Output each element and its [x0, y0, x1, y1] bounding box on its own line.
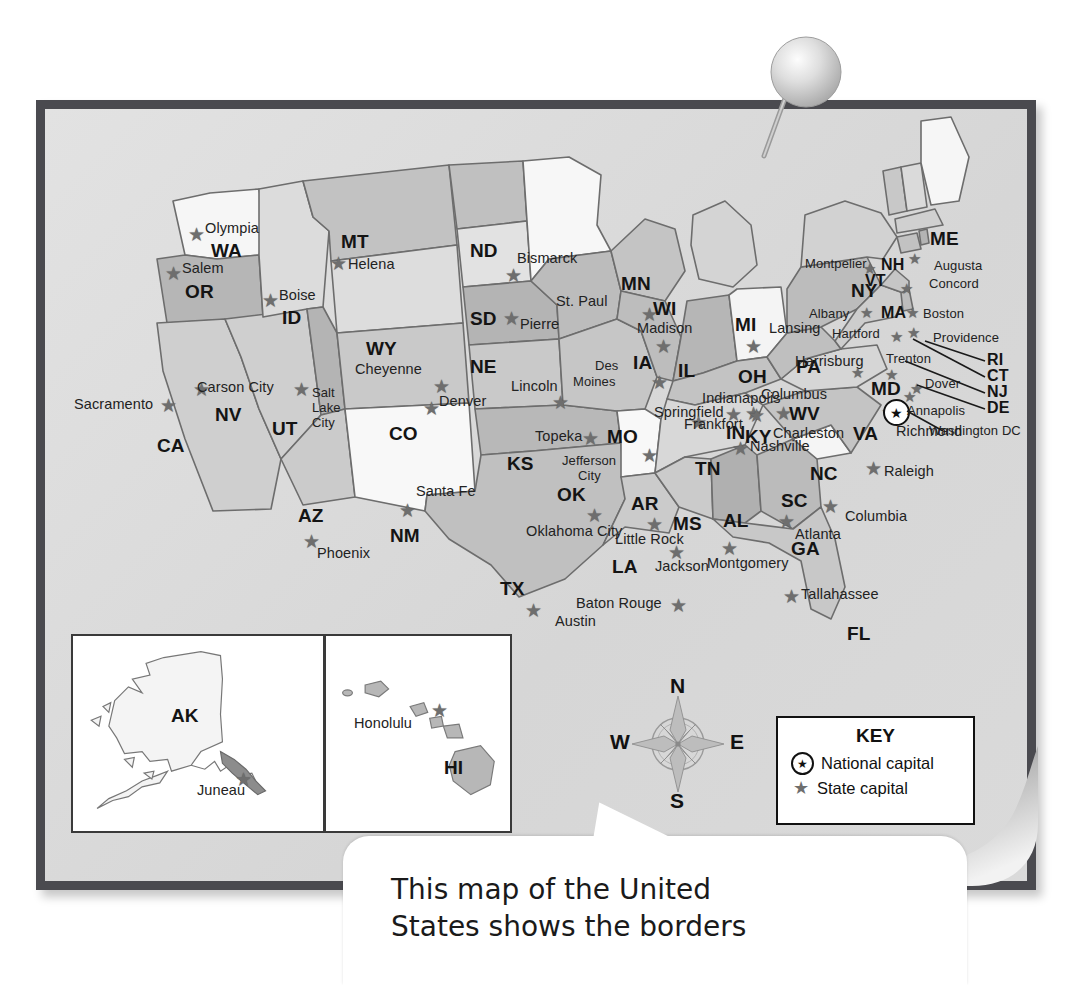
- state-capital-star-icon: ★: [655, 337, 672, 356]
- city-label-lansing: Lansing: [769, 321, 821, 336]
- city-label-salem: Salem: [182, 261, 224, 276]
- state-capital-star-icon: ★: [582, 429, 599, 448]
- city-label-jefferson: Jefferson: [562, 454, 616, 467]
- state-capital-star-icon: ★: [783, 587, 800, 606]
- state-abbr-mi: MI: [735, 315, 756, 334]
- city-label-charleston: Charleston: [773, 426, 844, 441]
- state-abbr-ky: KY: [745, 427, 772, 446]
- state-abbr-wv: WV: [789, 404, 820, 423]
- state-capital-star-icon: ★: [399, 501, 416, 520]
- city-label-montpelier: Montpelier: [805, 257, 867, 270]
- state-abbr-me: ME: [930, 229, 959, 248]
- state-abbr-mn: MN: [621, 274, 651, 293]
- state-capital-star-icon: ★: [851, 365, 864, 380]
- city-label-juneau: Juneau: [197, 783, 245, 798]
- state-abbr-tn: TN: [695, 459, 721, 478]
- city-label-concord: Concord: [929, 277, 979, 290]
- city-label-moines: Moines: [573, 375, 616, 388]
- city-label-columbia: Columbia: [845, 509, 907, 524]
- state-capital-star-icon: ★: [160, 396, 177, 415]
- state-abbr-al: AL: [723, 511, 749, 530]
- city-label-pierre: Pierre: [520, 317, 559, 332]
- state-capital-star-icon: ★: [670, 596, 687, 615]
- state-abbr-il: IL: [678, 361, 695, 380]
- state-capital-star-icon: ★: [910, 381, 923, 396]
- state-abbr-mt: MT: [341, 232, 369, 251]
- hawaii-outline: [326, 636, 506, 827]
- state-abbr-nc: NC: [810, 464, 838, 483]
- state-capital-star-icon: ★: [907, 325, 920, 340]
- city-label-dover: Dover: [925, 377, 960, 390]
- state-abbr-sd: SD: [470, 309, 497, 328]
- state-capital-star-icon: ★: [885, 367, 898, 382]
- state-abbr-oh: OH: [738, 367, 767, 386]
- city-label-lincoln: Lincoln: [511, 379, 558, 394]
- state-abbr-or: OR: [185, 282, 214, 301]
- state-abbr-ca: CA: [157, 436, 185, 455]
- national-capital-star-icon: ★: [791, 752, 814, 775]
- state-abbr-wa: WA: [211, 241, 242, 260]
- state-capital-star-icon: ★: [725, 405, 742, 424]
- city-label-boston: Boston: [923, 307, 964, 320]
- state-abbr-nj: NJ: [987, 384, 1008, 400]
- state-capital-star-icon: ★: [775, 404, 792, 423]
- city-label-bismarck: Bismarck: [517, 251, 577, 266]
- state-abbr-fl: FL: [847, 624, 870, 643]
- state-capital-star-icon: ★: [900, 281, 913, 296]
- state-capital-star-icon: ★: [330, 254, 347, 273]
- city-label-topeka: Topeka: [535, 429, 582, 444]
- city-label-annapolis: Annapolis: [907, 404, 965, 417]
- state-capital-star-icon: ★: [188, 225, 205, 244]
- city-label-tallahassee: Tallahassee: [801, 587, 879, 602]
- state-abbr-az: AZ: [298, 506, 324, 525]
- city-label-st-paul: St. Paul: [556, 294, 608, 309]
- city-label-hartford: Hartford: [832, 327, 880, 340]
- city-label-washington-dc: Washington DC: [929, 424, 1021, 437]
- state-capital-star-icon: ★: [748, 406, 765, 425]
- state-capital-star-icon: ★: [890, 329, 903, 344]
- state-abbr-id: ID: [282, 308, 301, 327]
- state-abbr-co: CO: [389, 424, 418, 443]
- state-abbr-ia: IA: [633, 353, 652, 372]
- state-abbr-ne: NE: [470, 357, 497, 376]
- city-label-cheyenne: Cheyenne: [355, 362, 422, 377]
- state-abbr-ma: MA: [881, 305, 906, 321]
- map-board: ★ Olympia WA ★ Salem OR ★ Boise ID MT ★ …: [36, 100, 1036, 890]
- state-capital-star-icon: ★: [165, 264, 182, 283]
- state-capital-star-icon: ★: [505, 266, 522, 285]
- city-label-providence: Providence: [933, 331, 999, 344]
- state-abbr-ak: AK: [171, 706, 199, 725]
- state-abbr-wi: WI: [653, 299, 676, 318]
- state-abbr-va: VA: [853, 424, 878, 443]
- callout-line-2: States shows the borders: [391, 910, 746, 943]
- state-abbr-nd: ND: [470, 241, 498, 260]
- state-abbr-ut: UT: [272, 419, 298, 438]
- city-label-olympia: Olympia: [205, 221, 259, 236]
- city-label-columbus: Columbus: [761, 387, 827, 402]
- state-abbr-hi: HI: [444, 758, 463, 777]
- city-label-des: Des: [595, 359, 618, 372]
- state-abbr-ms: MS: [673, 514, 702, 533]
- city-label-albany: Albany: [809, 307, 849, 320]
- state-capital-star-icon: ★: [293, 380, 310, 399]
- state-abbr-tx: TX: [500, 579, 524, 598]
- pushpin-icon: [744, 28, 864, 168]
- state-capital-star-icon: ★: [745, 337, 762, 356]
- city-label-carson-city: Carson City: [197, 380, 274, 395]
- city-label-montgomery: Montgomery: [707, 556, 789, 571]
- state-capital-star-icon: ★: [525, 601, 542, 620]
- callout-bubble: This map of the UnitedStates shows the b…: [343, 836, 967, 985]
- city-label-denver: Denver: [439, 394, 486, 409]
- city-label-boise: Boise: [279, 288, 316, 303]
- state-capital-star-icon: ★: [908, 251, 921, 266]
- state-capital-star-icon: ★: [860, 305, 873, 320]
- state-capital-star-icon: ★: [503, 309, 520, 328]
- state-abbr-nv: NV: [215, 405, 242, 424]
- city-label-salt: Salt: [312, 386, 335, 399]
- state-abbr-wy: WY: [366, 339, 397, 358]
- city-label-trenton: Trenton: [886, 352, 931, 365]
- state-capital-star-icon: ★: [262, 291, 279, 310]
- state-abbr-la: LA: [612, 557, 638, 576]
- city-label-helena: Helena: [348, 257, 395, 272]
- city-label-phoenix: Phoenix: [317, 546, 370, 561]
